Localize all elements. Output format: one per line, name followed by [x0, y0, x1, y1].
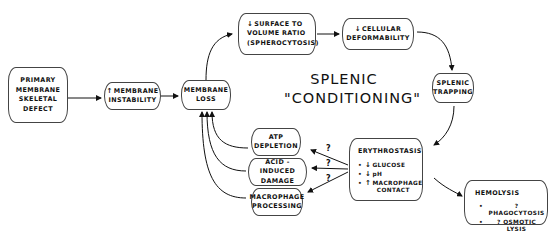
acid-damage-line1: ACID - INDUCED	[249, 158, 306, 177]
down-arrow-icon: ↓	[365, 162, 371, 169]
title-line1: SPLENIC	[284, 70, 404, 89]
splenic-trapping-line2: TRAPPING	[433, 88, 473, 98]
hemolysis-item-text: ? PHAGOCYTOSIS	[486, 203, 547, 217]
atp-depletion-line2: DEPLETION	[254, 142, 298, 152]
hemolysis-item-osmotic-lysis: • ? OSMOTIC LYSIS	[475, 219, 547, 233]
primary-defect-line3: SKELETAL	[19, 95, 57, 105]
erythrostasis-item-text: pH	[372, 171, 382, 178]
erythrostasis-item-text: GLUCOSE	[372, 162, 405, 169]
cellular-deformability-line1: ↓CELLULAR	[355, 25, 402, 35]
cellular-deformability-text1: CELLULAR	[362, 25, 401, 33]
membrane-instability-box: ↑MEMBRANE INSTABILITY	[104, 82, 161, 110]
primary-defect-line2: MEMBRANE	[16, 86, 61, 96]
hemolysis-heading: HEMOLYSIS	[475, 189, 519, 199]
primary-defect-line4: DEFECT	[23, 105, 53, 115]
down-arrow-icon: ↓	[247, 20, 253, 28]
bullet-icon: •	[479, 219, 483, 226]
bullet-icon: •	[479, 203, 483, 210]
erythrostasis-item-glucose: • ↓ GLUCOSE	[358, 162, 405, 169]
macrophage-processing-line1: MACROPHAGE	[250, 193, 305, 203]
hemolysis-item-text: ? OSMOTIC LYSIS	[486, 219, 547, 233]
surface-volume-text1: SURFACE TO	[254, 20, 302, 28]
erythrostasis-item-ph: • ↓ pH	[358, 171, 382, 178]
cellular-deformability-box: ↓CELLULAR DEFORMABILITY	[342, 18, 414, 50]
question-mark-1: ?	[326, 144, 331, 153]
erythrostasis-item-macrophage: • ↑ MACROPHAGE CONTACT	[358, 180, 414, 194]
hemolysis-item-phagocytosis: • ? PHAGOCYTOSIS	[475, 203, 547, 217]
macrophage-processing-line2: PROCESSING	[252, 202, 302, 212]
up-arrow-icon: ↑	[365, 180, 371, 187]
title-line2: "CONDITIONING"	[284, 89, 404, 108]
surface-volume-ratio-box: ↓SURFACE TO VOLUME RATIO (SPHEROCYTOSIS)	[238, 13, 316, 55]
erythrostasis-box: ERYTHROSTASIS • ↓ GLUCOSE • ↓ pH • ↑ MAC…	[349, 138, 423, 201]
up-arrow-icon: ↑	[106, 87, 112, 95]
acid-damage-line2: DAMAGE	[261, 177, 295, 187]
bullet-icon: •	[358, 171, 362, 178]
membrane-loss-line2: LOSS	[196, 95, 216, 105]
question-mark-3: ?	[326, 174, 331, 183]
surface-volume-line2: VOLUME RATIO	[247, 29, 306, 39]
membrane-instability-line1: ↑MEMBRANE	[106, 87, 158, 97]
primary-defect-line1: PRIMARY	[20, 76, 55, 86]
bullet-icon: •	[358, 162, 362, 169]
atp-depletion-line1: ATP	[269, 133, 284, 143]
splenic-trapping-line1: SPLENIC	[437, 79, 470, 89]
splenic-conditioning-title: SPLENIC "CONDITIONING"	[284, 70, 404, 108]
acid-induced-damage-box: ACID - INDUCED DAMAGE	[248, 158, 307, 186]
erythrostasis-item-text: MACROPHAGE CONTACT	[372, 180, 414, 194]
down-arrow-icon: ↓	[365, 171, 371, 178]
down-arrow-icon: ↓	[355, 25, 361, 33]
surface-volume-line1: ↓SURFACE TO	[247, 20, 303, 30]
membrane-loss-box: MEMBRANE LOSS	[181, 80, 231, 110]
surface-volume-line3: (SPHEROCYTOSIS)	[247, 39, 319, 49]
erythrostasis-heading: ERYTHROSTASIS	[358, 147, 422, 157]
membrane-loss-line1: MEMBRANE	[184, 86, 229, 96]
splenic-trapping-box: SPLENIC TRAPPING	[432, 73, 474, 103]
macrophage-processing-box: MACROPHAGE PROCESSING	[251, 188, 303, 216]
atp-depletion-box: ATP DEPLETION	[251, 128, 301, 156]
bullet-icon: •	[358, 180, 362, 187]
question-mark-2: ?	[326, 159, 331, 168]
cellular-deformability-line2: DEFORMABILITY	[346, 34, 410, 44]
membrane-instability-line2: INSTABILITY	[108, 96, 156, 106]
hemolysis-box: HEMOLYSIS • ? PHAGOCYTOSIS • ? OSMOTIC L…	[464, 180, 548, 225]
primary-membrane-skeletal-defect-box: PRIMARY MEMBRANE SKELETAL DEFECT	[8, 67, 68, 123]
membrane-instability-text1: MEMBRANE	[114, 87, 159, 95]
